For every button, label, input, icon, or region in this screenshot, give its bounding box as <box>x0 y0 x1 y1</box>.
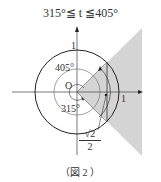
origin-label: O <box>65 81 72 91</box>
sqrt2-over-2-label: √2 2 <box>79 128 101 152</box>
figure-caption: （図 2 ） <box>60 164 100 179</box>
x-point <box>105 94 108 97</box>
unit-label-x: 1 <box>121 94 126 104</box>
unit-label-y: 1 <box>71 41 76 51</box>
y-axis-arrow-icon <box>75 26 79 32</box>
unit-circle-diagram <box>0 0 161 182</box>
angle-label-315: 315° <box>61 104 80 114</box>
angle-label-405: 405° <box>55 63 74 73</box>
